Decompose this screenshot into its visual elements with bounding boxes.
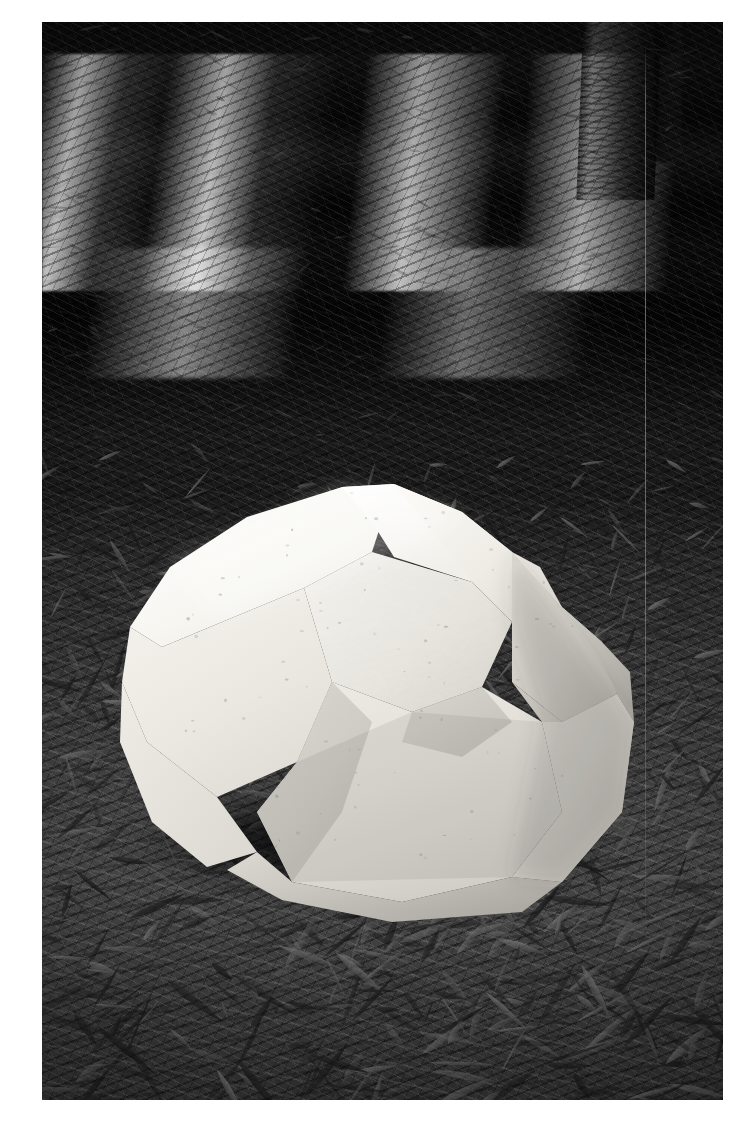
stone-speckle [428,526,431,528]
stone-speckle [360,562,364,565]
stone-speckle [515,646,519,648]
stone-speckle [186,617,190,621]
stone-speckle [373,632,377,635]
stone-speckle [454,580,458,581]
stone-speckle [275,845,278,848]
stone-speckle [424,639,427,642]
stone-speckle [194,635,198,639]
stone-speckle [379,567,381,570]
stone-speckle [442,511,445,515]
stone-speckle [420,710,423,712]
stone-speckle [296,599,300,601]
stone-speckle [394,772,396,773]
stone-speckle [494,729,497,731]
stone-speckle [549,623,553,625]
stone-speckle [221,577,225,579]
stone-speckle [357,749,361,750]
stone-speckle [258,697,262,698]
stone-speckle [437,624,440,626]
stone-speckle [419,853,422,856]
stone-speckle [320,813,322,814]
stone-speckle [561,774,564,777]
stone-speckle [443,835,447,836]
stone-speckle [489,548,493,550]
stone-speckle [354,806,357,809]
stone-speckle [281,661,285,663]
stone-speckle [444,681,445,684]
stone-speckle [543,581,545,584]
stone-speckle [492,569,494,571]
page-root [0,0,751,1124]
stone-speckle [428,662,431,664]
stone-speckle [319,602,322,604]
stone-speckle [424,518,428,520]
stone-speckle [529,798,531,800]
stone-speckle [319,610,322,611]
stone-speckle [277,786,279,788]
stone-speckle [324,741,328,743]
stone-speckle [279,839,281,841]
stone-speckle [334,839,337,841]
stone-speckle [191,720,194,722]
stone-speckle [534,768,536,770]
stone-sculpture [42,22,723,1100]
stone-speckle [498,752,500,754]
stone-speckle [224,699,227,703]
stone-speckle [398,649,400,650]
stone-speckle [508,586,510,589]
stone-speckle [192,613,194,616]
stone-speckle [364,589,366,592]
stone-speckle [444,626,448,628]
stone-speckle [441,718,443,722]
stone-speckle [349,492,353,493]
stone-speckle [515,679,519,681]
stone-speckle [423,857,427,860]
stone-speckle [286,554,288,557]
stone-speckle [327,627,329,629]
stone-speckle [285,544,289,546]
stone-speckle [238,576,240,578]
stone-speckle [306,686,308,688]
stone-speckle [427,676,431,678]
stone-speckle [354,772,357,774]
stone-speckle [571,625,574,626]
stone-speckle [419,716,421,718]
stone-speckle [300,630,304,632]
stone-speckle [505,659,507,660]
stone-speckle [291,529,293,532]
stone-speckle [357,784,359,785]
stone-speckle [349,748,351,752]
stone-speckle [275,794,278,798]
stone-speckle [403,671,405,672]
stone-speckle [470,810,473,813]
stone-sculpture-group [42,22,723,1100]
stone-speckle [192,730,195,733]
stone-speckle [535,618,540,620]
stone-speckle [552,625,556,628]
stone-speckle [469,839,473,840]
stone-speckle [365,517,367,519]
stone-speckle [218,593,222,595]
stone-speckle [185,730,188,732]
stone-speckle [283,778,286,779]
stone-speckle [285,679,289,681]
stone-speckle [242,717,245,720]
stone-speckle [296,831,300,834]
stone-speckle [487,751,489,754]
stone-speckle [374,517,378,520]
stone-speckle [514,834,515,837]
photograph [42,22,723,1100]
stone-speckle [338,622,341,624]
